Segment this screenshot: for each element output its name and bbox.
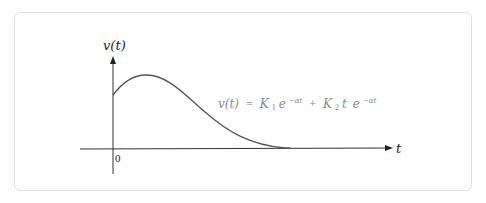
x-axis	[80, 148, 388, 149]
term2-subscript: 2	[335, 103, 339, 112]
term1-subscript: 1	[272, 103, 276, 112]
term2-coeff: K	[322, 97, 333, 111]
equation-equals: =	[246, 97, 253, 111]
origin-label: 0	[115, 152, 121, 164]
term2-exponent: −αt	[363, 97, 377, 105]
x-axis-label: t	[396, 141, 402, 156]
term1-exponent: −αt	[289, 97, 303, 105]
equation-plus: +	[309, 97, 316, 111]
term1-base: e	[279, 97, 286, 111]
x-axis-arrow-icon	[385, 145, 393, 151]
term1-coeff: K	[259, 97, 270, 111]
response-plot: v(t) t 0 v(t) = K 1 e −αt + K 2 t e −αt	[0, 0, 486, 203]
y-axis-label: v(t)	[103, 38, 126, 53]
y-axis-arrow-icon	[110, 56, 116, 64]
equation-lhs: v(t)	[218, 97, 239, 111]
response-curve	[113, 75, 290, 148]
term2-base: e	[353, 97, 360, 111]
svg-text:v(t) = K 1: v(t) = K 1 e −αt + K 2 t e −αt	[218, 92, 377, 113]
equation: v(t) = K 1 e −αt + K 2 t e −αt	[218, 92, 377, 113]
term2-variable: t	[342, 97, 347, 111]
